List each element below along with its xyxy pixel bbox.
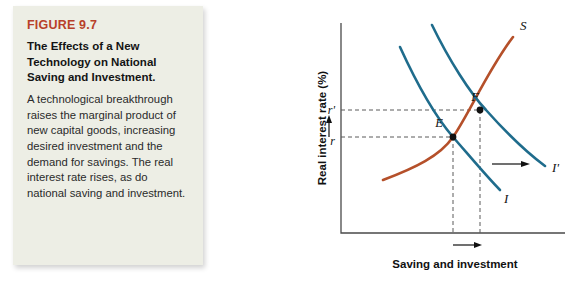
label-point-f: F [470,90,479,104]
investment-shift-arrow [492,161,530,167]
tick-label-r: r [330,134,335,148]
figure-number: FIGURE 9.7 [27,18,190,32]
label-point-e: E [434,116,443,130]
x-axis-title: Saving and investment [392,258,517,270]
figure-container: FIGURE 9.7 The Effects of a New Technolo… [0,0,585,286]
figure-description: A technological breakthrough raises the … [27,92,190,201]
curve-investment-i-prime [432,25,545,166]
equilibrium-point-e [450,134,457,141]
label-curve-s: S [520,18,527,33]
chart-area: E F S I I' r' r [230,0,585,286]
supply-demand-chart: E F S I I' r' r [230,0,585,286]
figure-title: The Effects of a New Technology on Natio… [27,39,190,85]
label-curve-i-prime: I' [551,160,559,175]
caption-panel: FIGURE 9.7 The Effects of a New Technolo… [13,6,203,265]
curve-saving-s [383,37,513,180]
equilibrium-point-f [477,107,484,114]
tick-label-r-prime: r' [328,103,336,117]
saving-investment-rise-arrow [453,242,482,248]
label-curve-i: I [503,191,509,206]
y-axis-title: Real interest rate (%) [316,71,328,186]
curve-investment-i [400,47,500,190]
